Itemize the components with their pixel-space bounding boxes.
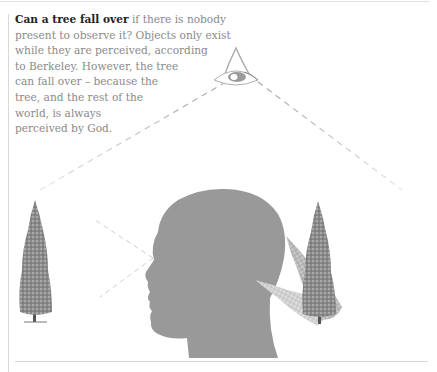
illustration <box>0 0 437 372</box>
tree-left <box>19 200 52 322</box>
tree-upright <box>302 201 336 324</box>
all-seeing-eye-icon <box>214 48 258 85</box>
perception-lines-person <box>95 220 153 297</box>
head-silhouette <box>145 189 285 358</box>
perception-lines-god <box>40 82 402 190</box>
